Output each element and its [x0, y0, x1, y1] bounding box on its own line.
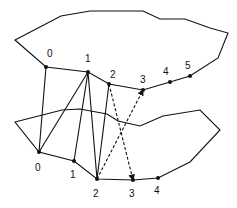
top-vertex-4: [168, 80, 172, 84]
connection-line: [97, 84, 109, 179]
top-vertex-label-2: 2: [110, 69, 116, 80]
connection-line: [39, 67, 46, 152]
top-vertex-label-3: 3: [140, 74, 146, 85]
bottom-vertex-0: [37, 150, 41, 154]
bottom-vertex-label-1: 1: [70, 169, 76, 180]
bottom-vertex-4: [156, 176, 160, 180]
top-vertex-label-1: 1: [85, 53, 91, 64]
top-vertex-label-0: 0: [47, 48, 53, 59]
top-vertex-label-5: 5: [185, 60, 191, 71]
vertex-labels: 01234501234: [35, 48, 191, 199]
bottom-vertex-2: [95, 177, 99, 181]
top-vertex-2: [107, 82, 111, 86]
bottom-vertex-label-0: 0: [35, 162, 41, 173]
bottom-vertex-label-2: 2: [93, 188, 99, 199]
connection-line: [88, 72, 97, 179]
vertex-points: [37, 65, 192, 182]
bottom-vertex-3: [131, 178, 135, 182]
top-vertex-0: [44, 65, 48, 69]
contour-correspondence-diagram: 01234501234: [0, 0, 237, 208]
bottom-vertex-label-4: 4: [154, 185, 160, 196]
top-vertex-label-4: 4: [163, 66, 169, 77]
top-vertex-3: [141, 88, 145, 92]
connection-line: [74, 72, 88, 161]
bottom-vertex-1: [72, 159, 76, 163]
top-vertex-5: [188, 74, 192, 78]
connection-line: [97, 90, 143, 179]
bottom-vertex-label-3: 3: [129, 188, 135, 199]
connection-line: [39, 72, 88, 152]
top-vertex-1: [86, 70, 90, 74]
